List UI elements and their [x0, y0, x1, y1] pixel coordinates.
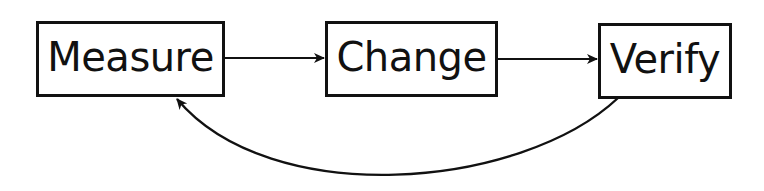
node-verify: Verify: [598, 23, 732, 99]
node-verify-label: Verify: [610, 39, 720, 79]
edge-verify-to-measure: [177, 98, 618, 175]
node-change: Change: [325, 21, 498, 97]
diagram-canvas: Measure Change Verify: [0, 0, 764, 191]
node-change-label: Change: [336, 37, 486, 77]
node-measure: Measure: [36, 21, 225, 97]
node-measure-label: Measure: [47, 37, 214, 77]
